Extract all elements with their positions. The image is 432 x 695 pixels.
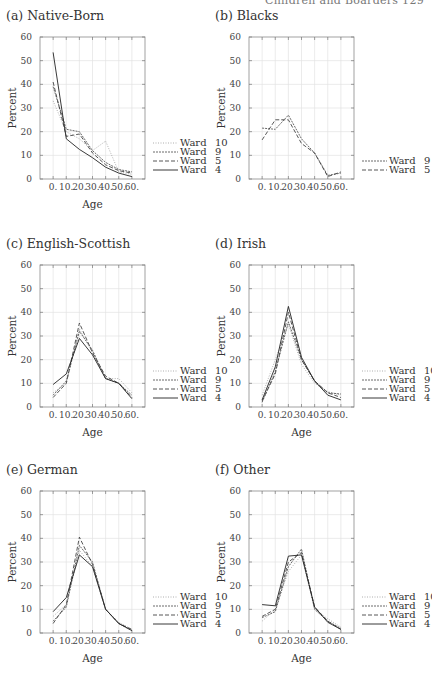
y-tick-label: 0 [235,402,241,412]
y-tick-label: 0 [235,174,241,184]
y-tick-label: 40 [21,533,33,543]
y-tick-label: 20 [21,581,33,591]
legend-label-number: 4 [424,392,430,403]
chart-panel-english-scottish: (c) English-Scottish 01020304050600.10.2… [6,236,222,466]
y-tick-label: 50 [21,284,33,294]
line-chart: 01020304050600.10.20.30.40.50.60.Percent… [6,8,222,208]
chart-panel-blacks: (b) Blacks 01020304050600.10.20.30.40.50… [215,8,431,238]
legend: Ward9Ward5 [362,155,430,175]
chart-panel-native-born: (a) Native-Born 01020304050600.10.20.30.… [6,8,222,238]
y-tick-label: 10 [21,378,33,388]
y-tick-label: 10 [230,378,242,388]
y-tick-label: 0 [26,628,32,638]
line-chart: 01020304050600.10.20.30.40.50.60.Percent… [6,462,222,695]
line-chart: 01020304050600.10.20.30.40.50.60.Percent… [215,462,431,695]
legend-label-number: 5 [424,164,430,175]
grid [40,265,145,407]
x-axis-title: Age [290,652,312,664]
x-tick-label: 60. [334,182,348,192]
y-tick-label: 60 [230,260,242,270]
y-tick-label: 30 [230,331,242,341]
y-tick-label: 10 [230,150,242,160]
y-tick-label: 30 [21,103,33,113]
legend-label: Ward [180,164,207,175]
x-tick-label: 0. [49,410,58,420]
grid [249,491,354,633]
y-tick-label: 0 [26,402,32,412]
y-tick-label: 50 [21,56,33,66]
y-axis-title: Percent [6,541,18,583]
x-axis-title: Age [81,652,103,664]
x-tick-label: 60. [334,410,348,420]
y-tick-label: 20 [21,127,33,137]
y-tick-label: 30 [230,557,242,567]
x-tick-label: 0. [49,182,58,192]
y-tick-label: 10 [230,604,242,614]
running-head: Children and Boarders 129 [265,0,424,7]
x-tick-label: 0. [258,182,267,192]
y-tick-label: 20 [230,127,242,137]
y-tick-label: 50 [230,56,242,66]
x-axis-title: Age [81,198,103,210]
y-axis-title: Percent [215,87,227,129]
y-axis-title: Percent [215,315,227,357]
legend: Ward10Ward9Ward5Ward4 [362,365,432,403]
y-axis-title: Percent [6,87,18,129]
chart-panel-irish: (d) Irish 01020304050600.10.20.30.40.50.… [215,236,431,466]
y-tick-label: 20 [230,581,242,591]
y-tick-label: 20 [230,355,242,365]
chart-panel-other: (f) Other 01020304050600.10.20.30.40.50.… [215,462,431,692]
x-tick-label: 60. [334,636,348,646]
y-tick-label: 60 [230,486,242,496]
line-chart: 01020304050600.10.20.30.40.50.60.Percent… [215,8,431,208]
y-tick-label: 60 [21,486,33,496]
x-tick-label: 60. [125,636,139,646]
y-tick-label: 20 [21,355,33,365]
y-tick-label: 10 [21,150,33,160]
chart-panel-german: (e) German 01020304050600.10.20.30.40.50… [6,462,222,692]
x-tick-label: 0. [49,636,58,646]
y-tick-label: 50 [230,284,242,294]
y-tick-label: 30 [230,103,242,113]
legend-label-number: 4 [424,618,430,629]
x-tick-label: 60. [125,410,139,420]
y-tick-label: 40 [230,307,242,317]
y-tick-label: 0 [26,174,32,184]
legend-label: Ward [180,618,207,629]
y-tick-label: 40 [21,79,33,89]
grid [249,37,354,179]
y-tick-label: 30 [21,331,33,341]
y-tick-label: 10 [21,604,33,614]
y-tick-label: 60 [21,260,33,270]
x-tick-label: 0. [258,410,267,420]
x-axis-title: Age [81,426,103,438]
y-tick-label: 30 [21,557,33,567]
y-tick-label: 50 [230,510,242,520]
line-chart: 01020304050600.10.20.30.40.50.60.Percent… [6,236,222,466]
legend-label: Ward [389,164,416,175]
y-tick-label: 0 [235,628,241,638]
legend-label: Ward [389,618,416,629]
y-tick-label: 60 [21,32,33,42]
y-tick-label: 40 [21,307,33,317]
y-tick-label: 50 [21,510,33,520]
legend-label: Ward [180,392,207,403]
line-chart: 01020304050600.10.20.30.40.50.60.Percent… [215,236,431,466]
x-axis-title: Age [290,426,312,438]
grid [249,265,354,407]
y-tick-label: 40 [230,79,242,89]
y-axis-title: Percent [215,541,227,583]
y-tick-label: 40 [230,533,242,543]
x-tick-label: 0. [258,636,267,646]
y-tick-label: 60 [230,32,242,42]
legend: Ward10Ward9Ward5Ward4 [362,591,432,629]
legend-label: Ward [389,392,416,403]
y-axis-title: Percent [6,315,18,357]
x-tick-label: 60. [125,182,139,192]
